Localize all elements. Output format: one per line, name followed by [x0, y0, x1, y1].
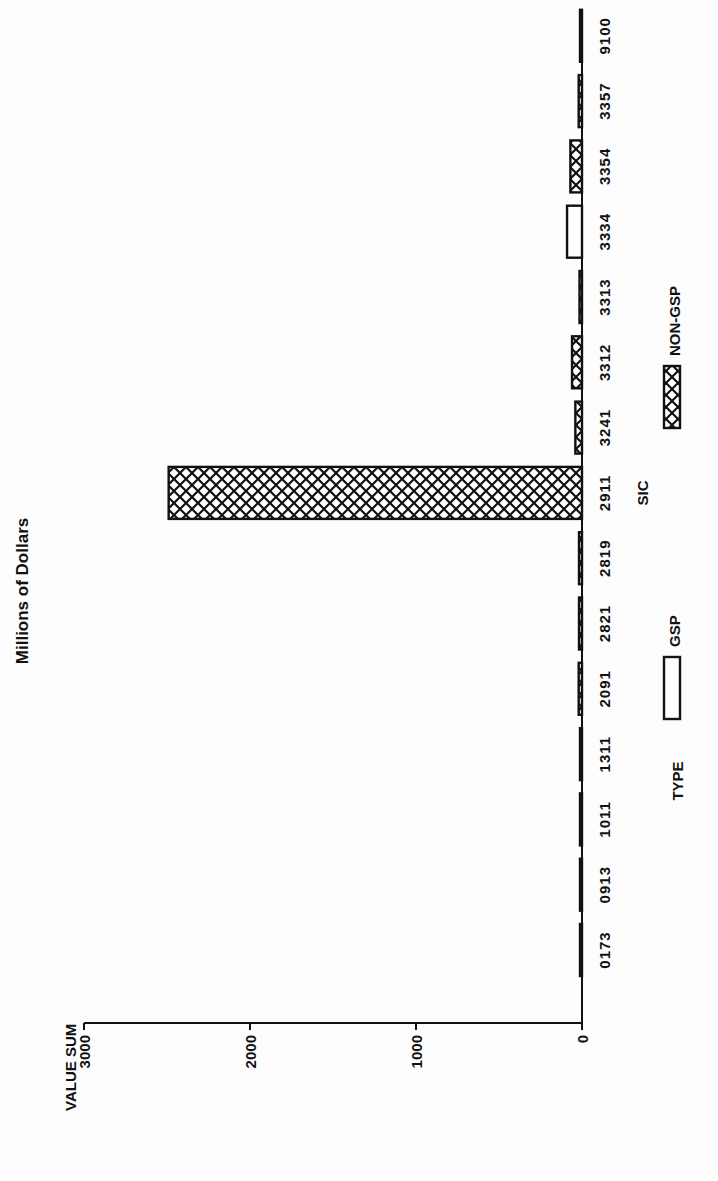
x-tick-label: 3354 — [596, 148, 613, 185]
bar-non-gsp-0173 — [580, 924, 582, 976]
chart-page: Millions of Dollars VALUE SUM 0100020003… — [0, 0, 718, 1181]
bar-chart: Millions of Dollars VALUE SUM 0100020003… — [0, 0, 718, 1181]
x-tick-label: 2819 — [596, 540, 613, 577]
x-tick-label: 2911 — [596, 475, 613, 512]
bar-gsp-3334 — [567, 206, 582, 258]
bar-non-gsp-3241 — [575, 402, 582, 454]
x-tick-label: 3334 — [596, 213, 613, 250]
y-tick-label: 2000 — [242, 1035, 259, 1068]
y-tick-label: 0 — [574, 1035, 591, 1043]
legend-label-gsp: GSP — [666, 615, 683, 647]
x-tick-label: 0913 — [596, 866, 613, 903]
x-tick-label: 3313 — [596, 278, 613, 315]
bar-non-gsp-9100 — [580, 10, 582, 62]
bar-non-gsp-3313 — [580, 271, 582, 323]
bar-non-gsp-1011 — [580, 793, 582, 845]
bar-non-gsp-3354 — [570, 140, 582, 192]
x-tick-label: 1311 — [596, 736, 613, 773]
x-tick-label: 0173 — [596, 931, 613, 968]
x-tick-label: 9100 — [596, 17, 613, 54]
legend-label-non-gsp: NON-GSP — [666, 286, 683, 356]
bar-non-gsp-2091 — [579, 663, 582, 715]
bar-non-gsp-3357 — [579, 75, 582, 127]
y-axis: 0100020003000 — [76, 1023, 591, 1068]
bar-non-gsp-2911 — [169, 467, 582, 519]
legend-swatch-non-gsp — [664, 366, 680, 428]
bar-non-gsp-2821 — [579, 598, 582, 650]
x-axis: 0173091310111311209128212819291132413312… — [582, 10, 613, 1023]
legend: TYPEGSPNON-GSP — [664, 286, 686, 801]
bar-non-gsp-3312 — [572, 336, 582, 388]
legend-swatch-gsp — [664, 657, 680, 719]
legend-title: TYPE — [669, 761, 686, 800]
x-tick-label: 1011 — [596, 801, 613, 838]
y-tick-label: 3000 — [76, 1035, 93, 1068]
x-tick-label: 3241 — [596, 409, 613, 446]
x-tick-label: 3312 — [596, 344, 613, 381]
x-tick-label: 2091 — [596, 670, 613, 707]
bar-non-gsp-2819 — [579, 532, 582, 584]
x-tick-label: 2821 — [596, 605, 613, 642]
x-tick-label: 3357 — [596, 82, 613, 119]
chart-title: Millions of Dollars — [13, 518, 32, 664]
bar-non-gsp-0913 — [580, 859, 582, 911]
bar-non-gsp-1311 — [580, 728, 582, 780]
x-axis-label: SIC — [634, 480, 651, 505]
y-tick-label: 1000 — [408, 1035, 425, 1068]
bars — [169, 10, 582, 976]
